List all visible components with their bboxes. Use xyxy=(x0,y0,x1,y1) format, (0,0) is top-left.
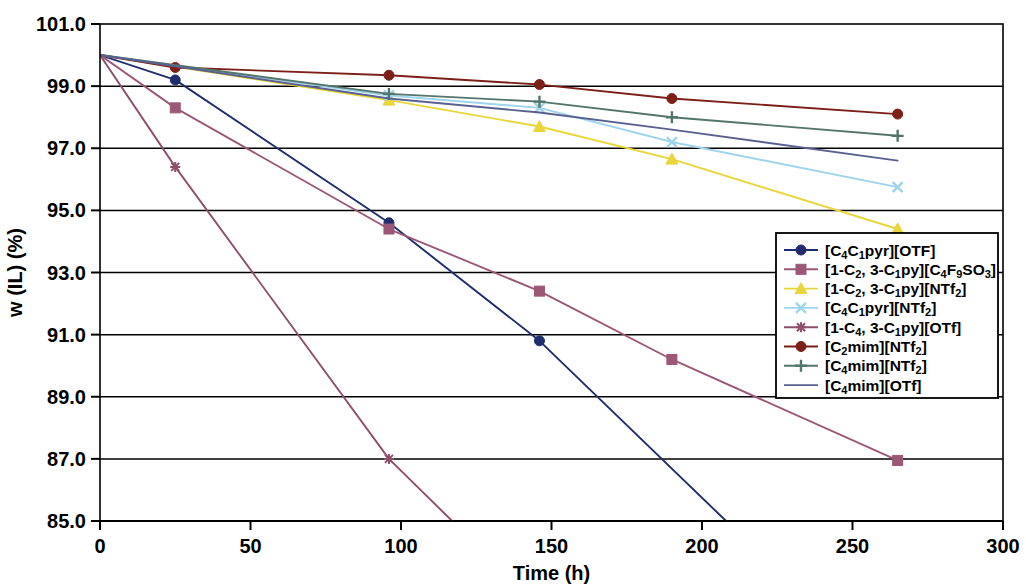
x-axis-title: Time (h) xyxy=(513,562,590,584)
data-point-square xyxy=(534,286,544,296)
x-axis-tick-labels: 050100150200250300 xyxy=(94,535,1019,557)
y-tick-label: 89.0 xyxy=(47,386,86,408)
y-tick-label: 97.0 xyxy=(47,137,86,159)
data-point-square xyxy=(667,354,677,364)
legend-label: [C2mim][NTf2] xyxy=(825,338,927,357)
y-tick-label: 101.0 xyxy=(36,13,86,35)
x-tick-label: 300 xyxy=(986,535,1019,557)
y-tick-label: 85.0 xyxy=(47,510,86,532)
data-point-circle xyxy=(796,342,806,352)
data-point-square xyxy=(170,103,180,113)
y-tick-label: 95.0 xyxy=(47,199,86,221)
x-tick-label: 250 xyxy=(836,535,869,557)
chart-container: 85.087.089.091.093.095.097.099.0101.0 05… xyxy=(0,0,1026,584)
data-point-circle xyxy=(170,75,180,85)
data-point-square xyxy=(893,455,903,465)
chart-legend: [C4C1pyr][OTF][1-C2, 3-C1py][C4F9SO3][1-… xyxy=(776,233,998,398)
data-point-plus xyxy=(892,130,904,142)
x-tick-label: 200 xyxy=(685,535,718,557)
data-point-circle xyxy=(893,109,903,119)
line-chart: 85.087.089.091.093.095.097.099.0101.0 05… xyxy=(0,0,1026,584)
data-point-plus xyxy=(533,96,545,108)
x-tick-label: 100 xyxy=(384,535,417,557)
legend-label: [1-C4, 3-C1py][OTf] xyxy=(825,319,961,338)
y-axis-tick-labels: 85.087.089.091.093.095.097.099.0101.0 xyxy=(36,13,86,532)
data-point-square xyxy=(384,224,394,234)
legend-label: [C4mim][NTf2] xyxy=(825,357,927,376)
data-point-circle xyxy=(534,336,544,346)
y-tick-label: 91.0 xyxy=(47,324,86,346)
series-line xyxy=(100,55,452,521)
series-6 xyxy=(100,55,904,142)
legend-label: [C4mim][OTf] xyxy=(825,377,922,396)
data-point-circle xyxy=(384,70,394,80)
data-point-circle xyxy=(796,245,806,255)
series-4 xyxy=(100,55,452,521)
x-tick-label: 50 xyxy=(239,535,261,557)
y-tick-label: 87.0 xyxy=(47,448,86,470)
data-point-plus xyxy=(666,111,678,123)
y-tick-label: 93.0 xyxy=(47,262,86,284)
legend-label: [1-C2, 3-C1py][C4F9SO3] xyxy=(825,261,996,280)
series-line xyxy=(100,55,898,136)
x-tick-label: 0 xyxy=(94,535,105,557)
data-point-star xyxy=(384,454,394,464)
data-point-circle xyxy=(667,94,677,104)
y-tick-label: 99.0 xyxy=(47,75,86,97)
data-point-star xyxy=(170,162,180,172)
y-axis-title: w (IL) (%) xyxy=(4,228,26,318)
series-line xyxy=(100,55,898,187)
data-point-star xyxy=(796,322,806,332)
x-tick-label: 150 xyxy=(535,535,568,557)
data-point-circle xyxy=(534,80,544,90)
data-point-square xyxy=(796,264,806,274)
series-3 xyxy=(100,55,903,192)
